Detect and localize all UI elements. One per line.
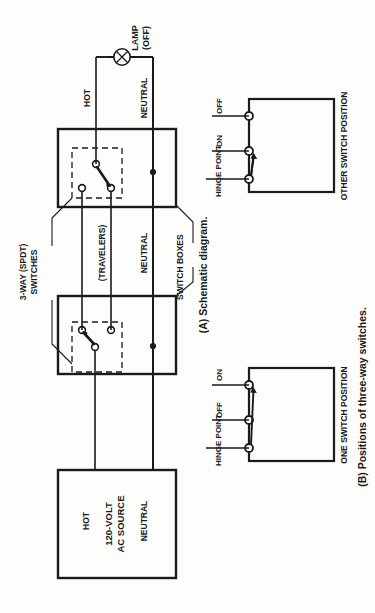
hinge-point-label-other: HINGE POINT xyxy=(214,145,223,197)
label-travelers: (TRAVELERS) xyxy=(97,225,107,282)
panel-b-caption: (B) Positions of three-way switches. xyxy=(356,307,368,487)
callout-switches-line2: SWITCHES xyxy=(29,249,39,294)
hinge-point-label-one: HINGE POINT xyxy=(214,414,223,466)
panel-a-caption: (A) Schematic diagram. xyxy=(197,217,209,334)
switch-position-title-one: ONE SWITCH POSITION xyxy=(339,366,349,463)
callout-switch-boxes-label: SWITCH BOXES xyxy=(175,234,185,300)
callout-switches-line1: 3-WAY (SPDT) xyxy=(18,243,28,300)
neutral-junction-dot-upper xyxy=(150,169,156,175)
terminal-label-off-one: OFF xyxy=(215,402,224,418)
ac-source-line2: AC SOURCE xyxy=(115,495,126,552)
figure-canvas: 120-VOLT AC SOURCE xyxy=(0,0,375,613)
label-neutral-lamp: NEUTRAL xyxy=(139,78,149,119)
lamp-label-line1: LAMP xyxy=(130,25,140,51)
switch-position-title-other: OTHER SWITCH POSITION xyxy=(339,92,349,201)
terminal-label-on-other: ON xyxy=(215,135,224,147)
three-way-switch-figure: 120-VOLT AC SOURCE xyxy=(0,0,375,613)
label-hot-lamp: HOT xyxy=(82,88,92,107)
label-hot-source: HOT xyxy=(81,511,91,530)
terminal-label-on-one: ON xyxy=(215,369,224,381)
neutral-junction-dot-lower xyxy=(150,343,156,349)
label-neutral-mid: NEUTRAL xyxy=(139,233,149,274)
label-neutral-source: NEUTRAL xyxy=(139,501,149,542)
page-background xyxy=(0,0,375,613)
lamp-label-line2: (OFF) xyxy=(141,26,151,50)
switch-upper-traveler-terminal-1 xyxy=(79,185,86,192)
terminal-label-off-other: OFF xyxy=(215,98,224,114)
ac-source-line1: 120-VOLT xyxy=(103,502,114,546)
